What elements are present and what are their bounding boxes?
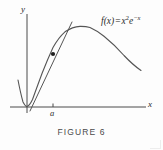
function-argument: (x) [104, 16, 115, 26]
figure-container: y x a f(x)=x2e−x FIGURE 6 [0, 0, 163, 150]
equals-sign: = [114, 16, 121, 26]
tangent-point-marker [51, 52, 55, 56]
x-axis-label: x [148, 100, 152, 109]
tangent-line [30, 22, 72, 111]
figure-caption: FIGURE 6 [0, 128, 163, 137]
function-equation-label: f(x)=x2e−x [101, 17, 141, 27]
tick-label-a: a [50, 109, 54, 118]
axes-group [10, 14, 146, 113]
page-corner-mark [150, 140, 161, 149]
function-curve [18, 26, 141, 106]
exponent-negative-x: −x [133, 14, 140, 21]
y-axis-label: y [21, 5, 25, 14]
